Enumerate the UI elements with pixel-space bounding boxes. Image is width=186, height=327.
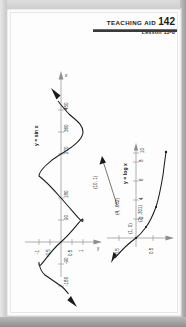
log-tick-0.5: 0.5 [149,247,154,254]
teaching-aid-sheet: TEACHING AID 142 Lesson 13-8 Graphs of y… [6,8,182,317]
sine-tick-1: 1 [79,249,84,252]
log-tick-8: 8 [139,159,144,162]
sine-y-axis-arrow [94,240,103,245]
sine-y-axis-label: y [97,246,100,251]
sine-tick-360: 360 [64,124,69,132]
log-annotation-4-602: (4, .602) [115,197,120,215]
sine-curve-arrow-bottom [67,296,77,307]
log-point-1-0 [135,237,137,239]
log-tick-10: 10 [140,147,145,153]
log-callout-arrow [100,156,107,165]
log-y-axis-arrow [166,236,175,241]
sine-x-tick-labels: -180 -90 90 180 270 360 450 [58,102,69,286]
log-callout-leader [103,161,117,205]
log-curve-label: y = log x [122,163,128,184]
sine-x-axis-arrow [59,71,64,80]
page-surround-bottom [0,317,186,327]
log-annotation-2-301: (2, .301) [138,204,143,222]
log-tick-4: 4 [139,197,144,200]
sine-tick--1: -1 [35,249,40,254]
sine-tick-0.5: 0.5 [68,249,73,256]
sine-tick-180: 180 [64,190,69,198]
log-point-2-301 [145,226,147,228]
sine-tick-90: 90 [64,214,69,220]
sine-tick--180: -180 [64,276,69,286]
log-x-axis-arrow [134,143,138,151]
log-point-10-1 [165,151,167,153]
sine-curve-label: y = sin x [33,125,39,146]
sine-x-axis-label: x [65,73,68,78]
graphs-svg: x y -180 -90 90 180 [7,9,181,316]
log-graph: 2 4 6 8 10 -0.5 0.5 [93,143,174,263]
log-annotation-10-1: (10, 1) [93,175,98,189]
log-point-4-602 [155,206,157,208]
log-tick-6: 6 [139,178,144,181]
sine-graph: x y -180 -90 90 180 [25,71,102,307]
graphs-area: x y -180 -90 90 180 [7,9,181,316]
log-annotation-1-0: (1, 0) [128,223,133,234]
sine-tick--90: -90 [64,257,69,264]
sine-curve-arrow-top [51,88,61,100]
scanned-page-viewport: TEACHING AID 142 Lesson 13-8 Graphs of y… [0,0,186,327]
